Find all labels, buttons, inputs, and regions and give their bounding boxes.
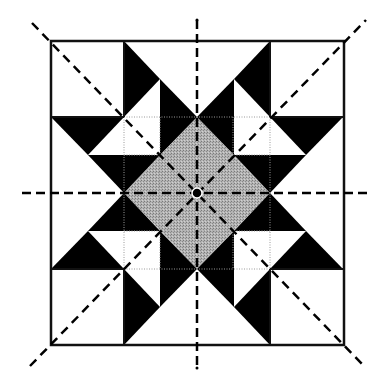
- black-triangle-top-left-1: [160, 79, 197, 117]
- black-triangle-bottom-left-2: [51, 231, 124, 269]
- black-triangle-top-right-1: [197, 79, 234, 117]
- black-triangle-top-right-2: [270, 117, 343, 155]
- black-triangle-bottom-right-0: [234, 269, 270, 345]
- black-triangle-bottom-left-1: [160, 269, 197, 307]
- quilt-block-diagram: [0, 0, 389, 383]
- axis-end-dot: [196, 367, 199, 370]
- black-triangle-bottom-right-2: [270, 231, 343, 269]
- black-triangle-bottom-left-0: [124, 269, 160, 345]
- center-point-marker: [192, 188, 202, 198]
- black-triangle-top-right-0: [234, 41, 270, 117]
- black-triangle-top-left-2: [51, 117, 124, 155]
- black-triangle-bottom-right-1: [197, 269, 234, 307]
- black-triangle-top-left-0: [124, 41, 160, 117]
- diagram-svg: [0, 0, 389, 383]
- axis-end-dot: [196, 19, 199, 22]
